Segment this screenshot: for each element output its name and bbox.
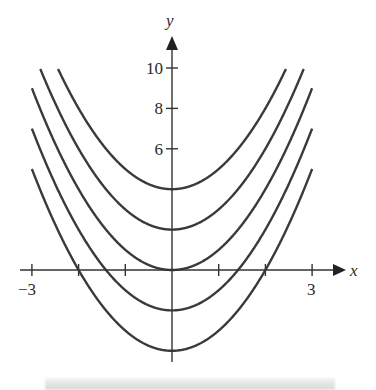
x-tick-label: 3: [307, 280, 316, 299]
y-tick-label: 10: [146, 59, 163, 78]
y-axis-label: y: [164, 11, 174, 30]
x-axis-label: x: [349, 261, 358, 280]
y-tick-label: 6: [155, 140, 164, 159]
caption-bar: [45, 378, 335, 390]
x-tick-label: −3: [18, 280, 36, 299]
x-axis-arrow-icon: [333, 264, 346, 276]
y-tick-label: 8: [155, 99, 164, 118]
y-axis-arrow-icon: [166, 36, 178, 50]
